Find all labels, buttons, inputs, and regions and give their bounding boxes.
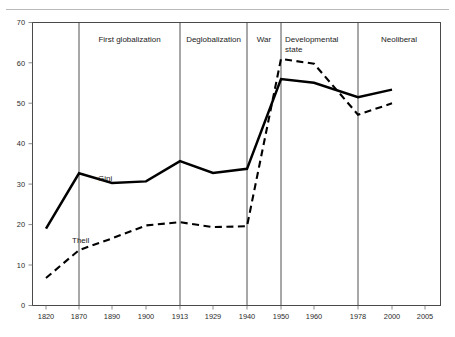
y-tick-label-40: 40 <box>17 139 25 148</box>
x-tick-group <box>46 306 425 310</box>
x-tick-label-1890: 1890 <box>104 312 120 321</box>
y-tick-label-50: 50 <box>17 99 25 108</box>
x-tick-label-1929: 1929 <box>205 312 221 321</box>
x-tick-label-1978: 1978 <box>350 312 366 321</box>
y-axis: 0 10 20 30 40 50 60 70 <box>17 18 33 310</box>
x-tick-label-1820: 1820 <box>38 312 54 321</box>
period-label-deglobalization: Deglobalization <box>186 35 241 44</box>
annotation-gini-label: Gini <box>98 174 112 183</box>
x-tick-label-1940: 1940 <box>239 312 255 321</box>
x-tick-label-1900: 1900 <box>138 312 154 321</box>
period-label-developmental-state-line1: Developmental <box>285 35 339 44</box>
y-tick-label-10: 10 <box>17 261 25 270</box>
y-tick-label-0: 0 <box>21 301 25 310</box>
x-axis: 1820 1870 1890 1900 1913 1929 1940 1950 … <box>38 306 433 322</box>
y-tick-group <box>29 23 33 306</box>
x-tick-label-1960: 1960 <box>306 312 322 321</box>
x-tick-label-1950: 1950 <box>273 312 289 321</box>
chart-svg: 0 10 20 30 40 50 60 70 <box>0 0 455 337</box>
y-tick-label-60: 60 <box>17 59 25 68</box>
annotation-theil-label: Theil <box>72 236 90 245</box>
x-tick-label-2005: 2005 <box>417 312 433 321</box>
period-label-developmental-state-line2: state <box>285 45 303 54</box>
inequality-line-chart: 0 10 20 30 40 50 60 70 <box>0 0 455 337</box>
y-tick-label-70: 70 <box>17 18 25 27</box>
x-tick-label-2000: 2000 <box>384 312 400 321</box>
y-tick-label-20: 20 <box>17 220 25 229</box>
period-label-neoliberal: Neoliberal <box>381 35 417 44</box>
x-tick-label-1913: 1913 <box>172 312 188 321</box>
y-tick-label-30: 30 <box>17 180 25 189</box>
x-tick-label-1870: 1870 <box>71 312 87 321</box>
plot-area-border <box>33 23 441 306</box>
period-label-war: War <box>257 35 272 44</box>
plot-frame <box>33 23 441 306</box>
period-label-first-globalization: First globalization <box>98 35 160 44</box>
